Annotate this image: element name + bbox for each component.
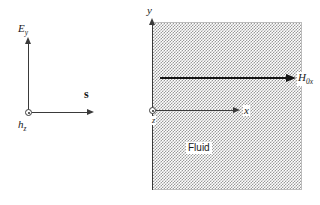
left-origin-out-of-page-icon bbox=[25, 109, 32, 116]
left-vertical-axis-arrowhead-icon bbox=[25, 37, 31, 44]
right-horizontal-axis-arrowhead-icon bbox=[233, 107, 240, 113]
left-vertical-axis-line bbox=[28, 44, 29, 113]
label-h-z: hz bbox=[18, 119, 26, 133]
field-arrow-shaft bbox=[160, 77, 287, 79]
field-arrow-arrowhead-icon bbox=[286, 74, 296, 82]
right-horizontal-axis-line bbox=[156, 110, 234, 111]
right-origin-out-of-page-icon bbox=[149, 107, 156, 114]
fluid-region-hatched bbox=[152, 22, 302, 190]
label-z-axis: z bbox=[151, 116, 156, 125]
label-fluid: Fluid bbox=[186, 142, 212, 154]
label-h-0x: H0x bbox=[297, 72, 314, 86]
physics-figure: Ey s hz y x z H0x Fluid bbox=[0, 0, 320, 205]
left-horizontal-axis-line bbox=[32, 112, 88, 113]
label-s-vector: s bbox=[84, 88, 89, 100]
label-y-axis: y bbox=[146, 5, 153, 16]
left-horizontal-axis-arrowhead-icon bbox=[87, 109, 94, 115]
label-e-y: Ey bbox=[18, 23, 28, 37]
right-vertical-axis-arrowhead-icon bbox=[149, 18, 155, 25]
label-x-axis: x bbox=[243, 105, 250, 116]
